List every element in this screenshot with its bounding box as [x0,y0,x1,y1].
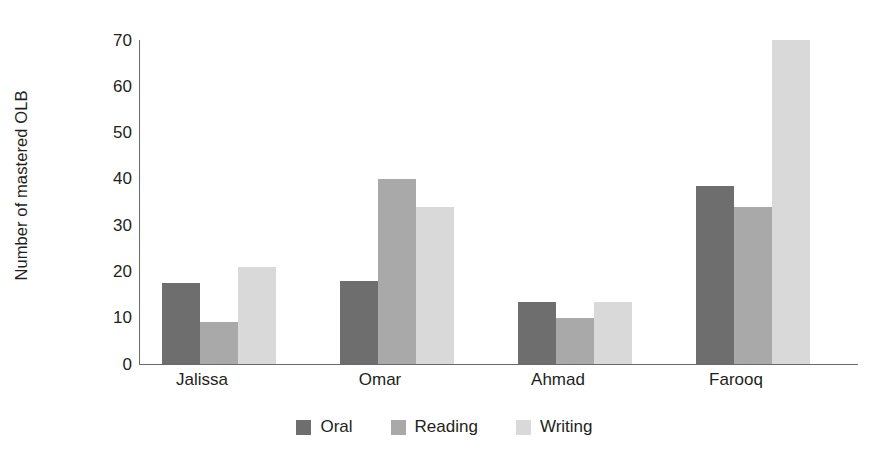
x-label-farooq: Farooq [639,370,833,390]
grouped-bar-chart: Number of mastered OLB 70 60 50 40 30 20… [0,0,889,474]
x-label-jalissa: Jalissa [105,370,299,390]
y-tick-40: 40 [46,170,132,187]
legend-label-reading: Reading [415,417,478,437]
y-tick-70: 70 [46,32,132,49]
bar-group-jalissa [162,40,276,364]
bar-group-ahmad [518,40,632,364]
bar-group-farooq [696,40,810,364]
y-tick-30: 30 [46,217,132,234]
bar-jalissa-oral[interactable] [162,283,200,364]
legend-item-oral[interactable]: Oral [296,417,352,437]
legend-swatch-oral-icon [296,420,311,435]
legend-item-writing[interactable]: Writing [516,417,593,437]
y-tick-60: 60 [46,78,132,95]
y-tick-20: 20 [46,263,132,280]
y-axis-tick-labels: 70 60 50 40 30 20 10 0 [40,0,132,474]
bar-farooq-writing[interactable] [772,40,810,364]
y-axis-title: Number of mastered OLB [0,0,42,370]
plot-area [140,40,858,364]
bar-jalissa-writing[interactable] [238,267,276,364]
legend-item-reading[interactable]: Reading [391,417,478,437]
bar-omar-writing[interactable] [416,207,454,364]
x-label-ahmad: Ahmad [461,370,655,390]
bar-group-omar [340,40,454,364]
bar-omar-oral[interactable] [340,281,378,364]
bar-ahmad-reading[interactable] [556,318,594,364]
chart-legend: Oral Reading Writing [0,417,889,437]
bar-farooq-oral[interactable] [696,186,734,364]
y-axis-title-text: Number of mastered OLB [12,90,31,280]
y-tick-10: 10 [46,309,132,326]
legend-label-oral: Oral [320,417,352,437]
bar-omar-reading[interactable] [378,179,416,364]
bar-jalissa-reading[interactable] [200,322,238,364]
legend-swatch-writing-icon [516,420,531,435]
y-tick-50: 50 [46,124,132,141]
legend-label-writing: Writing [540,417,593,437]
bar-ahmad-writing[interactable] [594,302,632,364]
legend-swatch-reading-icon [391,420,406,435]
bar-farooq-reading[interactable] [734,207,772,364]
x-label-omar: Omar [283,370,477,390]
bar-ahmad-oral[interactable] [518,302,556,364]
